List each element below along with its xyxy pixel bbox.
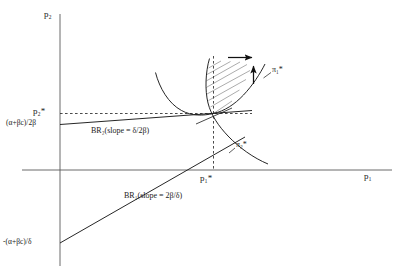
p1-star-label: p₁*	[200, 174, 212, 183]
economics-diagram: p₂ p₁ p₂* (α+βc)/2β -(α+βc)/δ p₁* BR₂(sl…	[0, 0, 406, 278]
pi2-star-label: π₂*	[236, 141, 247, 149]
x-axis-label: p₁	[364, 172, 372, 181]
br1-y-intercept-label: -(α+βc)/δ	[3, 238, 31, 246]
pi1-leader-line	[264, 73, 272, 79]
tangent-segment	[196, 108, 232, 124]
br1-curve-label: BR₁(slope = 2β/δ)	[124, 192, 182, 200]
br2-curve-label: BR₂(slope = δ/2β)	[91, 127, 149, 135]
p2-star-label: p₂*	[33, 107, 45, 116]
br1-line	[60, 137, 245, 243]
axis-group	[22, 14, 392, 266]
br2-line	[60, 111, 252, 125]
pi2-leader-line	[229, 148, 235, 153]
y-axis-label: p₂	[44, 10, 52, 19]
hatched-lens-region	[206, 61, 250, 114]
pi1-star-label: π₁*	[272, 66, 283, 74]
diagram-canvas	[0, 0, 406, 278]
br2-y-intercept-label: (α+βc)/2β	[6, 119, 36, 127]
